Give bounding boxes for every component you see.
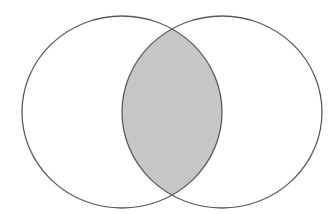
venn-diagram [0, 0, 335, 214]
